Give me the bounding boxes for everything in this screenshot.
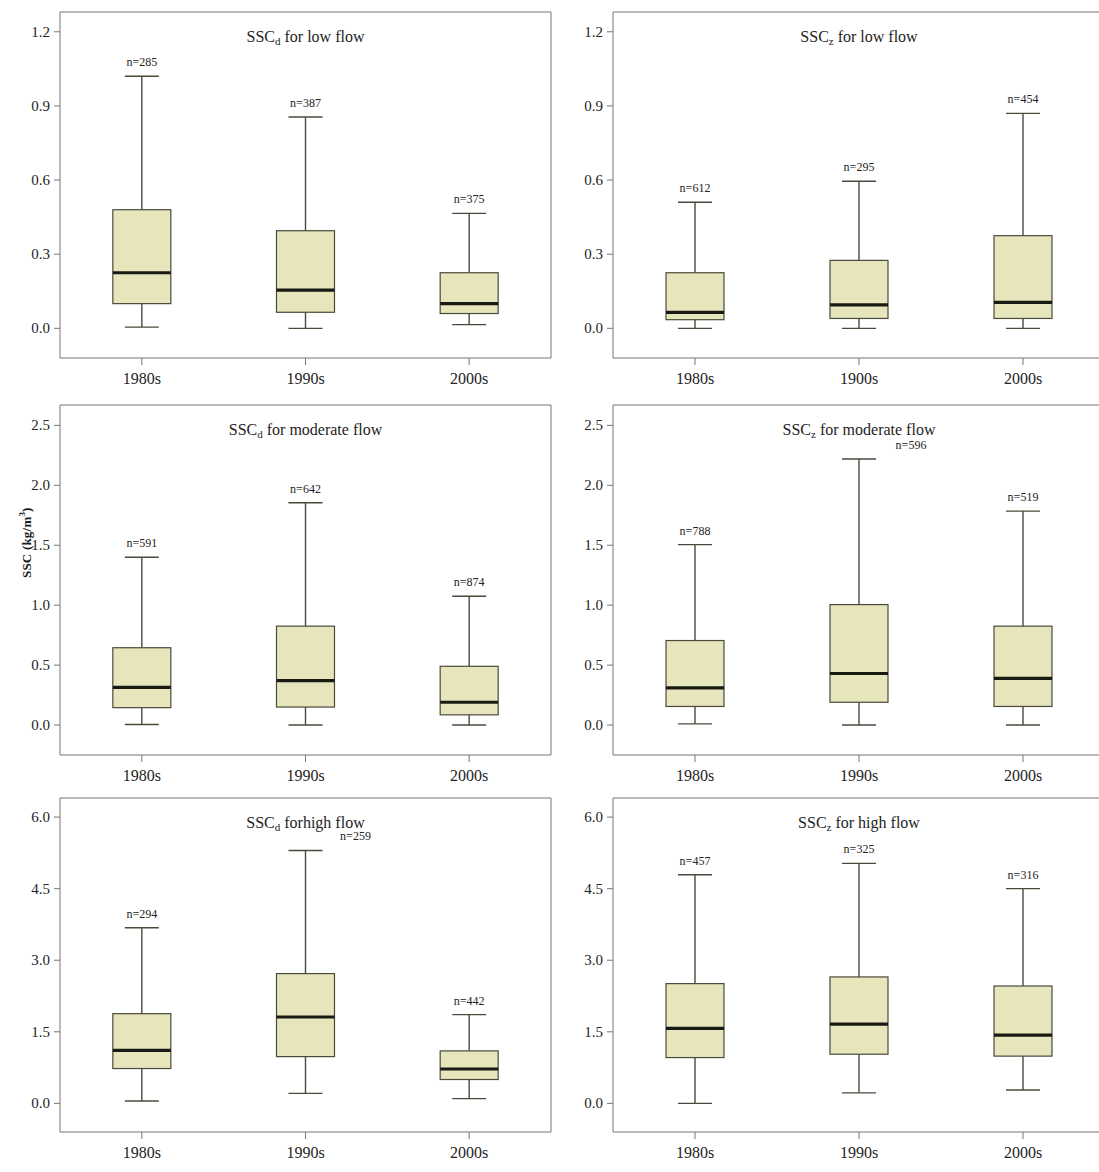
x-axis: 1980s1990s2000s: [676, 1132, 1042, 1161]
title-main: SSC: [229, 421, 257, 438]
sample-size-label: n=442: [454, 994, 485, 1008]
x-tick-label: 1990s: [286, 370, 324, 387]
x-tick-label: 1900s: [840, 370, 878, 387]
y-axis: 0.01.53.04.56.0: [584, 809, 613, 1111]
y-tick-label: 0.9: [31, 98, 50, 114]
sample-size-label: n=642: [290, 482, 321, 496]
y-tick-label: 0.5: [584, 657, 603, 673]
x-tick-label: 1980s: [123, 370, 161, 387]
box-iqr: [994, 986, 1052, 1056]
x-tick-label: 1990s: [840, 1144, 878, 1161]
x-axis: 1980s1900s2000s: [676, 358, 1042, 387]
boxplot-2000s: n=519: [994, 490, 1052, 725]
boxplot-1990s: n=596: [830, 438, 926, 725]
sample-size-label: n=259: [340, 829, 371, 843]
x-tick-label: 2000s: [1004, 370, 1042, 387]
boxplot-1980s: n=285: [113, 55, 171, 327]
y-tick-label: 0.6: [31, 172, 50, 188]
boxplot-1900s: n=295: [830, 160, 888, 328]
box-iqr: [113, 648, 171, 708]
box-iqr: [666, 984, 724, 1058]
x-tick-label: 1980s: [676, 370, 714, 387]
boxplot-2000s: n=874: [440, 575, 498, 725]
panel-sscz-low-flow: 0.00.30.60.91.2SSCz for low flow1980s190…: [560, 0, 1099, 390]
title-main: SSC: [783, 421, 811, 438]
sample-size-label: n=316: [1008, 868, 1039, 882]
y-tick-label: 6.0: [31, 809, 50, 825]
title-rest: for moderate flow: [263, 421, 383, 438]
y-tick-label: 2.0: [31, 477, 50, 493]
box-iqr: [440, 666, 498, 715]
y-tick-label: 0.0: [31, 717, 50, 733]
y-axis: 0.01.53.04.56.0: [31, 809, 60, 1111]
y-tick-label: 1.2: [31, 24, 50, 40]
y-axis: 0.00.51.01.52.02.5: [584, 417, 613, 733]
y-tick-label: 1.5: [584, 1024, 603, 1040]
sample-size-label: n=294: [126, 907, 157, 921]
panel-title: SSCd for low flow: [247, 28, 365, 47]
sample-size-label: n=285: [126, 55, 157, 69]
sample-size-label: n=457: [680, 854, 711, 868]
box-iqr: [830, 605, 888, 703]
y-tick-label: 3.0: [31, 952, 50, 968]
x-tick-label: 2000s: [450, 1144, 488, 1161]
y-tick-label: 3.0: [584, 952, 603, 968]
y-tick-label: 0.5: [31, 657, 50, 673]
sample-size-label: n=454: [1008, 92, 1039, 106]
panel-sscz-high-flow: 0.01.53.04.56.0SSCz for high flow1980s19…: [560, 780, 1099, 1172]
sample-size-label: n=788: [680, 524, 711, 538]
panel-sscd-moderate-flow: 0.00.51.01.52.02.5SSCd for moderate flow…: [0, 390, 560, 790]
y-axis: 0.00.30.60.91.2: [31, 24, 60, 337]
y-tick-label: 1.5: [31, 537, 50, 553]
boxplot-1980s: n=294: [113, 907, 171, 1101]
title-rest: for low flow: [834, 28, 918, 45]
x-axis: 1980s1990s2000s: [123, 358, 489, 387]
y-tick-label: 2.0: [584, 477, 603, 493]
svg-text:SSCd for low flow: SSCd for low flow: [247, 28, 365, 47]
box-iqr: [277, 231, 335, 313]
sample-size-label: n=375: [454, 192, 485, 206]
panel-sscd-low-flow: 0.00.30.60.91.2SSCd for low flow1980s199…: [0, 0, 560, 390]
y-tick-label: 0.0: [584, 320, 603, 336]
box-iqr: [440, 1051, 498, 1080]
y-axis: 0.00.51.01.52.02.5: [31, 417, 60, 733]
svg-text:SSCz for high flow: SSCz for high flow: [798, 814, 920, 833]
boxplot-1990s: n=259: [277, 829, 371, 1093]
sample-size-label: n=591: [126, 536, 157, 550]
y-tick-label: 0.3: [584, 246, 603, 262]
y-tick-label: 4.5: [31, 881, 50, 897]
sample-size-label: n=325: [844, 842, 875, 856]
boxplot-2000s: n=442: [440, 994, 498, 1099]
sample-size-label: n=612: [680, 181, 711, 195]
title-main: SSC: [246, 814, 274, 831]
box-iqr: [440, 273, 498, 314]
boxplot-1980s: n=612: [666, 181, 724, 328]
boxplot-2000s: n=454: [994, 92, 1052, 328]
boxplot-1990s: n=642: [277, 482, 335, 725]
boxplot-2000s: n=375: [440, 192, 498, 324]
title-rest: for low flow: [280, 28, 364, 45]
sample-size-label: n=387: [290, 96, 321, 110]
panel-title: SSCz for high flow: [798, 814, 920, 833]
x-tick-label: 1980s: [676, 1144, 714, 1161]
panel-title: SSCz for low flow: [800, 28, 918, 47]
box-iqr: [994, 626, 1052, 706]
title-main: SSC: [798, 814, 826, 831]
panel-sscz-moderate-flow: 0.00.51.01.52.02.5SSCz for moderate flow…: [560, 390, 1099, 790]
boxplot-1990s: n=325: [830, 842, 888, 1093]
boxplot-1980s: n=591: [113, 536, 171, 724]
panel-sscd-high-flow: 0.01.53.04.56.0SSCd forhigh flow1980s199…: [0, 780, 560, 1172]
y-tick-label: 2.5: [584, 417, 603, 433]
panel-title: SSCd for moderate flow: [229, 421, 383, 440]
sample-size-label: n=295: [844, 160, 875, 174]
box-iqr: [994, 236, 1052, 319]
y-tick-label: 0.0: [31, 320, 50, 336]
x-tick-label: 2000s: [1004, 1144, 1042, 1161]
y-tick-label: 6.0: [584, 809, 603, 825]
title-rest: for moderate flow: [816, 421, 936, 438]
y-tick-label: 1.2: [584, 24, 603, 40]
y-tick-label: 0.0: [584, 1095, 603, 1111]
boxplot-1990s: n=387: [277, 96, 335, 328]
box-iqr: [277, 974, 335, 1057]
y-tick-label: 2.5: [31, 417, 50, 433]
